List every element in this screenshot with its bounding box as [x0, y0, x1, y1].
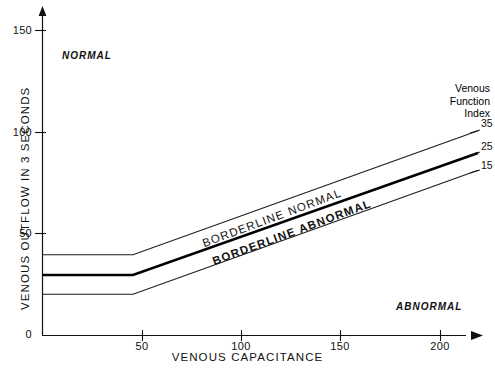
x-axis-title: VENOUS CAPACITANCE — [0, 352, 495, 364]
venous-function-chart: 150 100 50 0 50 100 150 200 VENOUS CAPAC… — [0, 0, 495, 376]
y-axis — [35, 6, 46, 336]
series-value-label-25: 25 — [481, 141, 493, 152]
legend-title-line-2: Function — [450, 95, 490, 108]
x-axis — [42, 330, 483, 341]
y-axis-title: VENOUS OUTFLOW IN 3 SECONDS — [20, 87, 32, 310]
annotation-normal: NORMAL — [62, 51, 112, 61]
x-tick-label-150: 150 — [320, 341, 360, 352]
x-tick-label-50: 50 — [122, 341, 162, 352]
y-tick-label-0: 0 — [0, 329, 32, 340]
leader-35 — [470, 130, 480, 133]
leader-15 — [470, 170, 480, 173]
series-value-label-35: 35 — [481, 118, 493, 129]
legend-title-block: Venous Function Index — [450, 82, 490, 120]
annotation-abnormal: ABNORMAL — [396, 302, 462, 312]
legend-title-line-1: Venous — [450, 82, 490, 95]
x-tick-label-200: 200 — [420, 341, 460, 352]
y-axis-arrowhead — [39, 6, 47, 16]
y-tick-label-150: 150 — [0, 25, 32, 36]
x-axis-arrowhead — [471, 331, 483, 340]
series-value-label-15: 15 — [481, 160, 493, 171]
series-line-25 — [43, 153, 478, 275]
